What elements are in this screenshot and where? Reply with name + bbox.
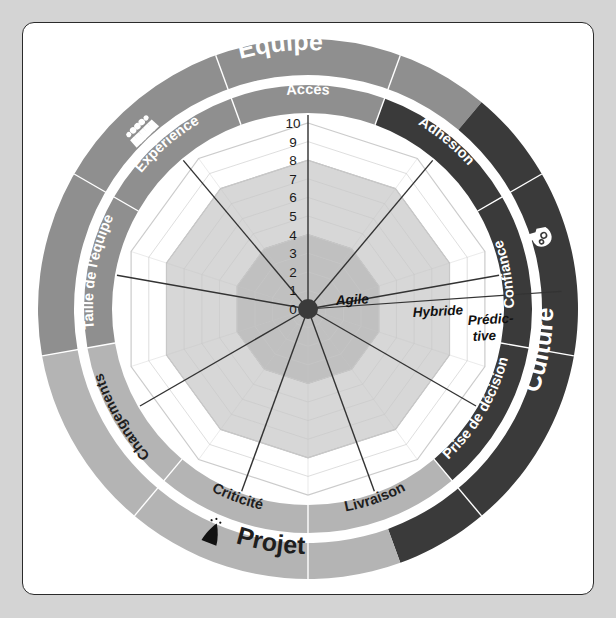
axis-label-acces: Accès	[286, 81, 331, 98]
tick-label-9: 9	[289, 135, 297, 150]
center-hub	[298, 299, 318, 319]
tick-label-2: 2	[289, 265, 297, 280]
radar-wheel-svg: 012345678910AgileHybridePrédic-tiveÉquip…	[0, 0, 616, 618]
radar-chart-stage: 012345678910AgileHybridePrédic-tiveÉquip…	[0, 0, 616, 618]
figure-root: 012345678910AgileHybridePrédic-tiveÉquip…	[0, 0, 616, 618]
tick-label-1: 1	[289, 283, 297, 298]
zone-label-predictive-1: Prédic-	[467, 311, 514, 328]
tick-label-4: 4	[289, 228, 297, 243]
tick-label-10: 10	[285, 116, 300, 131]
tick-label-3: 3	[289, 246, 297, 261]
tick-label-6: 6	[289, 190, 297, 205]
zone-label-hybride: Hybride	[412, 302, 463, 320]
tick-label-8: 8	[289, 153, 297, 168]
zone-label-predictive-2: tive	[472, 328, 497, 344]
zone-label-agile: Agile	[334, 291, 369, 308]
tick-label-7: 7	[289, 172, 297, 187]
tick-label-0: 0	[289, 302, 297, 317]
tick-label-5: 5	[289, 209, 297, 224]
